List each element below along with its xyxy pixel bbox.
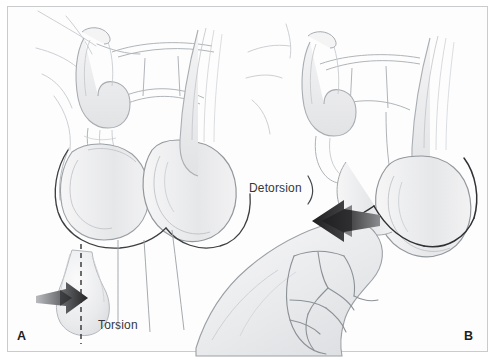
detorsion-leader-line	[308, 176, 313, 204]
panel-letter-b: B	[464, 329, 473, 343]
panel-a-artwork	[36, 11, 250, 344]
panel-a-penis	[76, 28, 130, 128]
panel-letter-a: A	[17, 329, 26, 343]
panel-b-scrotum-right	[376, 156, 471, 257]
detorsion-label: Detorsion	[249, 181, 302, 195]
panel-b-artwork	[196, 24, 477, 356]
panel-b-penis	[302, 32, 356, 136]
figure-root: Torsion Detorsion A B	[0, 0, 496, 361]
torsion-label: Torsion	[98, 318, 138, 332]
panel-a-scrotum-left	[60, 144, 149, 240]
panel-b-abdomen-contours	[246, 24, 291, 134]
illustration-artwork	[0, 0, 496, 361]
panel-a-descending-lines	[118, 230, 184, 332]
